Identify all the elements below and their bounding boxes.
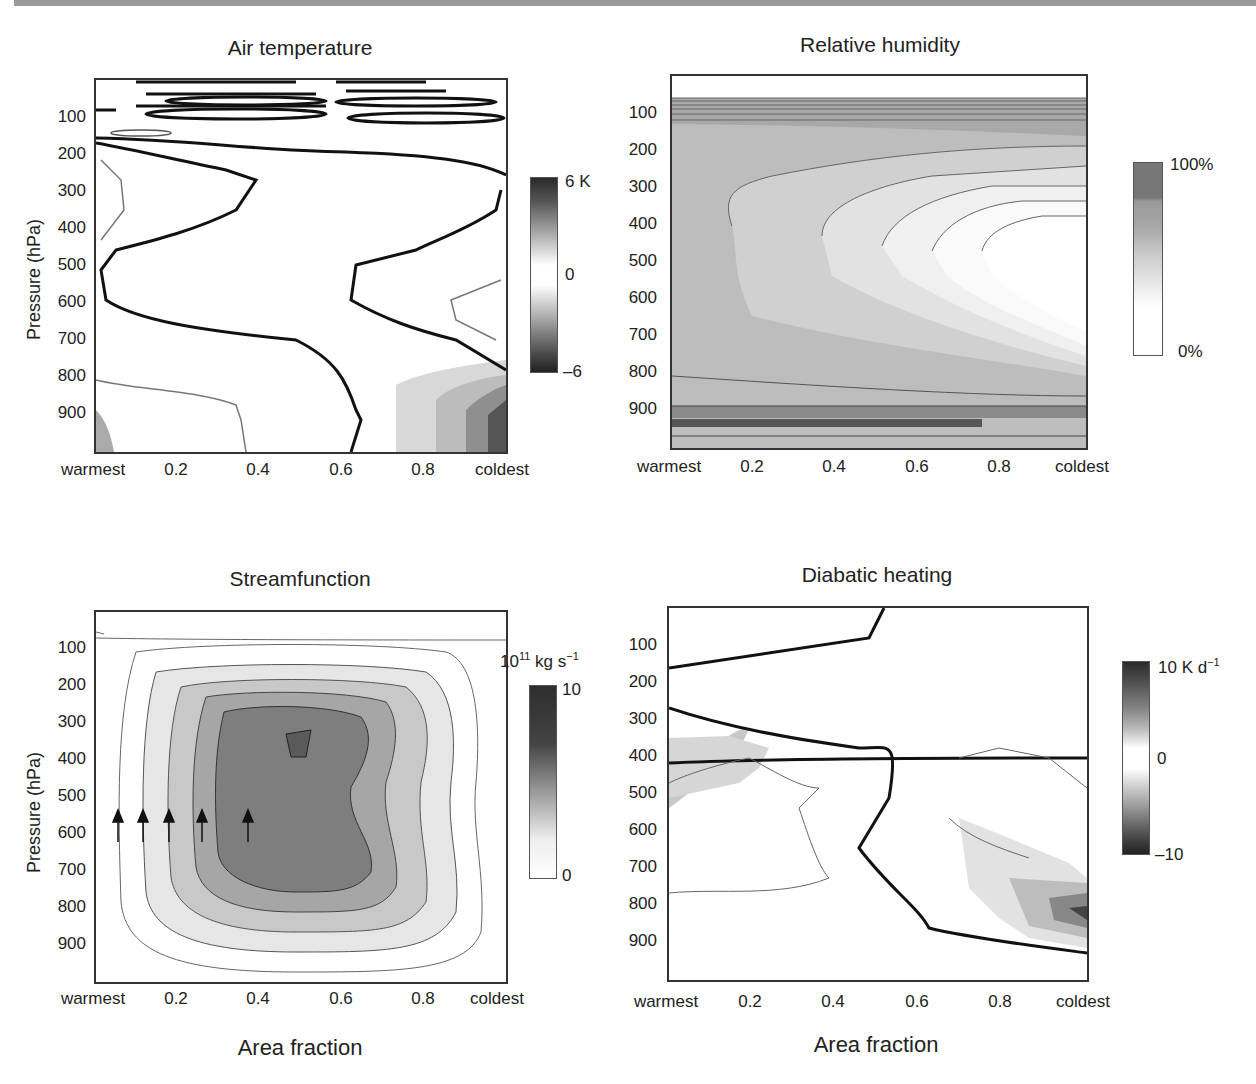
heat-ytick-500: 500 <box>607 783 657 803</box>
stream-xlabel: Area fraction <box>238 1035 363 1061</box>
top-border <box>14 0 1256 6</box>
streamfunction-plot <box>94 610 508 984</box>
air-ytick-200: 200 <box>36 144 86 164</box>
heat-ytick-200: 200 <box>607 672 657 692</box>
rh-xtick-warmest: warmest <box>637 457 701 477</box>
stream-cb-unit: 1011 kg s−1 <box>500 650 579 672</box>
heat-ytick-700: 700 <box>607 857 657 877</box>
air-temperature-title: Air temperature <box>190 36 410 60</box>
air-xtick-coldest: coldest <box>475 460 529 480</box>
rh-ytick-800: 800 <box>607 362 657 382</box>
heat-xtick-warmest: warmest <box>634 992 698 1012</box>
heat-xtick-0.4: 0.4 <box>821 992 845 1012</box>
heat-xtick-0.8: 0.8 <box>988 992 1012 1012</box>
air-ytick-500: 500 <box>36 255 86 275</box>
air-xtick-warmest: warmest <box>61 460 125 480</box>
rh-cb-top: 100% <box>1170 155 1213 175</box>
rh-xtick-coldest: coldest <box>1055 457 1109 477</box>
stream-xtick-warmest: warmest <box>61 989 125 1009</box>
stream-cb-unit-rest: kg s <box>530 652 566 671</box>
stream-ytick-700: 700 <box>36 860 86 880</box>
heat-ytick-600: 600 <box>607 820 657 840</box>
rh-ytick-200: 200 <box>607 140 657 160</box>
stream-xtick-0.6: 0.6 <box>329 989 353 1009</box>
heat-xtick-coldest: coldest <box>1056 992 1110 1012</box>
relative-humidity-plot <box>670 74 1088 450</box>
heat-cb-top: 10 K d−1 <box>1158 656 1220 678</box>
diabatic-heating-title: Diabatic heating <box>767 563 987 587</box>
heat-ytick-800: 800 <box>607 894 657 914</box>
rh-ytick-100: 100 <box>607 103 657 123</box>
stream-xtick-0.8: 0.8 <box>411 989 435 1009</box>
rh-xtick-0.4: 0.4 <box>822 457 846 477</box>
rh-xtick-0.8: 0.8 <box>987 457 1011 477</box>
air-ytick-800: 800 <box>36 366 86 386</box>
heat-cb-bot: –10 <box>1155 845 1183 865</box>
heat-xtick-0.6: 0.6 <box>905 992 929 1012</box>
rh-xtick-0.6: 0.6 <box>905 457 929 477</box>
air-xtick-0.2: 0.2 <box>164 460 188 480</box>
stream-cb-unit-exp: 11 <box>519 650 530 662</box>
stream-xtick-0.2: 0.2 <box>164 989 188 1009</box>
streamfunction-ylabel: Pressure (hPa) <box>24 752 45 873</box>
air-ytick-900: 900 <box>36 403 86 423</box>
air-ytick-300: 300 <box>36 181 86 201</box>
rh-ytick-900: 900 <box>607 399 657 419</box>
stream-ytick-500: 500 <box>36 786 86 806</box>
rh-ytick-500: 500 <box>607 251 657 271</box>
streamfunction-colorbar <box>529 685 557 879</box>
stream-ytick-400: 400 <box>36 749 86 769</box>
stream-cb-unit-exp2: −1 <box>566 650 579 662</box>
air-temperature-plot <box>94 78 508 454</box>
heat-xtick-0.2: 0.2 <box>738 992 762 1012</box>
stream-ytick-300: 300 <box>36 712 86 732</box>
stream-ytick-600: 600 <box>36 823 86 843</box>
relative-humidity-title: Relative humidity <box>770 33 990 57</box>
air-temperature-colorbar <box>530 177 558 373</box>
air-cb-top: 6 K <box>565 172 591 192</box>
air-cb-mid: 0 <box>565 265 574 285</box>
stream-cb-top: 10 <box>562 680 581 700</box>
stream-ytick-200: 200 <box>36 675 86 695</box>
rh-ytick-400: 400 <box>607 214 657 234</box>
rh-ytick-300: 300 <box>607 177 657 197</box>
stream-xtick-0.4: 0.4 <box>246 989 270 1009</box>
heat-xlabel: Area fraction <box>814 1032 939 1058</box>
air-xtick-0.6: 0.6 <box>329 460 353 480</box>
air-xtick-0.4: 0.4 <box>246 460 270 480</box>
heat-ytick-400: 400 <box>607 746 657 766</box>
air-ytick-100: 100 <box>36 107 86 127</box>
air-ytick-400: 400 <box>36 218 86 238</box>
heat-ytick-300: 300 <box>607 709 657 729</box>
air-ytick-700: 700 <box>36 329 86 349</box>
streamfunction-title: Streamfunction <box>190 567 410 591</box>
air-xtick-0.8: 0.8 <box>411 460 435 480</box>
air-cb-bot: –6 <box>563 362 582 382</box>
stream-ytick-800: 800 <box>36 897 86 917</box>
heat-cb-top-base: 10 K d <box>1158 658 1207 677</box>
rh-ytick-600: 600 <box>607 288 657 308</box>
stream-xtick-coldest: coldest <box>470 989 524 1009</box>
heat-cb-top-exp: −1 <box>1207 656 1220 668</box>
air-ytick-600: 600 <box>36 292 86 312</box>
stream-ytick-900: 900 <box>36 934 86 954</box>
relative-humidity-colorbar <box>1133 162 1163 356</box>
diabatic-heating-colorbar <box>1122 661 1150 855</box>
rh-cb-bot: 0% <box>1178 342 1203 362</box>
stream-cb-bot: 0 <box>562 866 571 886</box>
rh-xtick-0.2: 0.2 <box>740 457 764 477</box>
stream-cb-unit-base: 10 <box>500 652 519 671</box>
heat-ytick-100: 100 <box>607 635 657 655</box>
stream-ytick-100: 100 <box>36 638 86 658</box>
rh-ytick-700: 700 <box>607 325 657 345</box>
diabatic-heating-plot <box>667 606 1089 982</box>
heat-ytick-900: 900 <box>607 931 657 951</box>
heat-cb-mid: 0 <box>1157 749 1166 769</box>
